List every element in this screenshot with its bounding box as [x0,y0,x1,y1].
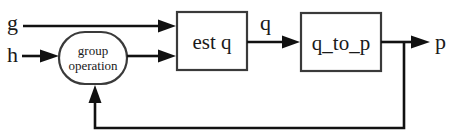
arrowhead-icon [40,50,59,63]
signal-label-q: q [260,10,271,35]
arrowhead-icon [158,20,176,33]
group-operation-label-line1: group [78,43,108,58]
input-label-g: g [7,10,18,35]
q-to-p-block: q_to_p [301,13,381,71]
edge-g-to-est-q [23,20,176,33]
arrowhead-icon [282,36,300,49]
block-diagram: g h group operation est q q q_to_p [0,0,458,138]
signal-label-p: p [435,29,446,54]
edge-est-q-to-q-to-p [247,36,300,49]
edge-q-to-p-output [381,36,430,49]
arrowhead-icon [158,50,176,63]
group-operation-label-line2: operation [68,58,118,73]
est-q-block: est q [177,12,247,70]
arrowhead-icon [89,85,102,103]
arrowhead-icon [411,36,430,49]
group-operation-block: group operation [59,32,127,84]
edge-h-to-group-operation [22,50,59,63]
est-q-label: est q [192,30,232,54]
edge-group-operation-to-est-q [127,50,176,63]
q-to-p-label: q_to_p [312,31,370,55]
input-label-h: h [7,42,18,67]
